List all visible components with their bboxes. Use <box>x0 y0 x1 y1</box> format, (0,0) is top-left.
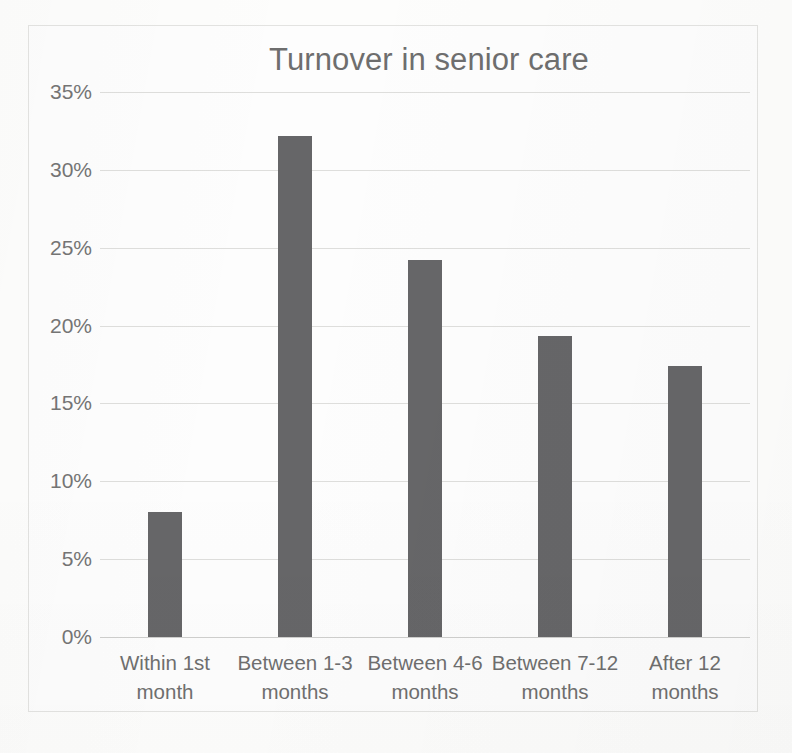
y-axis-tick-label: 0% <box>0 625 92 649</box>
bar-slot <box>230 92 360 637</box>
x-axis-tick-label-line: Between 4-6 <box>360 648 490 677</box>
y-axis-tick-label: 15% <box>0 391 92 415</box>
chart-page: Turnover in senior care 0%5%10%15%20%25%… <box>0 0 792 753</box>
x-axis-tick-label: After 12months <box>620 648 750 706</box>
y-axis-tick-label: 30% <box>0 158 92 182</box>
x-axis-tick-label: Between 1-3months <box>230 648 360 706</box>
bar[interactable] <box>148 512 182 637</box>
x-axis-tick-label-line: months <box>620 677 750 706</box>
x-axis-tick-label-line: Between 1-3 <box>230 648 360 677</box>
x-axis-tick-label-line: months <box>360 677 490 706</box>
y-axis-tick-label: 25% <box>0 236 92 260</box>
y-axis-tick-label: 20% <box>0 314 92 338</box>
chart-title: Turnover in senior care <box>100 42 758 78</box>
x-axis-tick-label-line: month <box>100 677 230 706</box>
bar-slot <box>100 92 230 637</box>
x-axis-tick-label-line: months <box>490 677 620 706</box>
bar[interactable] <box>278 136 312 637</box>
bar[interactable] <box>668 366 702 637</box>
x-axis-tick-label: Between 4-6months <box>360 648 490 706</box>
gridline <box>100 637 750 638</box>
x-axis-tick-label: Between 7-12months <box>490 648 620 706</box>
x-axis-tick-label: Within 1stmonth <box>100 648 230 706</box>
x-axis: Within 1stmonthBetween 1-3monthsBetween … <box>100 648 750 710</box>
bar-slot <box>360 92 490 637</box>
bar-slot <box>490 92 620 637</box>
bar[interactable] <box>538 336 572 637</box>
y-axis-tick-label: 10% <box>0 469 92 493</box>
x-axis-tick-label-line: Within 1st <box>100 648 230 677</box>
y-axis-tick-label: 35% <box>0 80 92 104</box>
bar-slot <box>620 92 750 637</box>
plot-area <box>100 92 750 637</box>
y-axis-tick-label: 5% <box>0 547 92 571</box>
x-axis-tick-label-line: Between 7-12 <box>490 648 620 677</box>
x-axis-tick-label-line: months <box>230 677 360 706</box>
bar[interactable] <box>408 260 442 637</box>
x-axis-tick-label-line: After 12 <box>620 648 750 677</box>
y-axis: 0%5%10%15%20%25%30%35% <box>0 0 92 753</box>
